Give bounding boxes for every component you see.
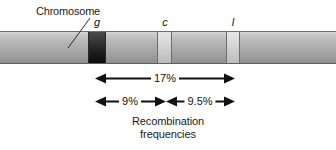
gene-label-g: g — [94, 16, 100, 28]
gene-band-g — [88, 32, 106, 63]
gene-label-c: c — [162, 16, 168, 28]
gene-band-l — [226, 32, 240, 63]
measurement-value-9-percent: 9% — [119, 95, 141, 108]
caption-line-1: Recombination — [0, 115, 336, 128]
measurement-row-interval-spans: 9% 9.5% — [0, 93, 336, 111]
chromosome-recombination-figure: Chromosome g c l 17% 9% 9.5% Recombinati… — [0, 0, 336, 150]
measurement-value-17-percent: 17% — [151, 72, 179, 85]
measurement-row-total-span: 17% — [0, 70, 336, 88]
measurement-value-9-5-percent: 9.5% — [184, 95, 215, 108]
arrow-9-5-percent — [0, 93, 336, 111]
chromosome-bar — [0, 31, 336, 64]
gene-band-c — [157, 32, 172, 63]
caption-line-2: frequencies — [0, 128, 336, 141]
chromosome-label: Chromosome — [36, 5, 100, 17]
recombination-frequencies-caption: Recombination frequencies — [0, 115, 336, 141]
gene-label-l: l — [232, 16, 234, 28]
